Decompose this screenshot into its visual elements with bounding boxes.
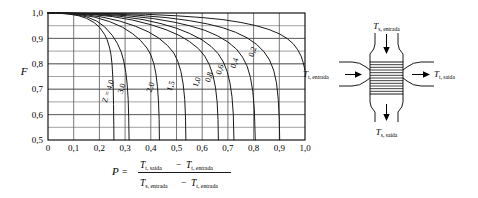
flow-arrow-shell-in (383, 34, 389, 54)
formula-den-term1-sub: s, entrada (145, 183, 168, 189)
chart-panel: Z = 4,03,02,01,51,00,80,60,40,2 00,10,20… (20, 8, 311, 153)
formula-den-term2-sub: t, entrada (196, 183, 218, 189)
x-tick-label: 0,6 (197, 143, 209, 153)
curve-label: 1,5 (165, 80, 177, 92)
figure-lmtd-correction-chart: Z = 4,03,02,01,51,00,80,60,40,2 00,10,20… (0, 0, 478, 198)
formula-equals: = (122, 167, 127, 177)
curve-label: 2,0 (145, 81, 157, 93)
flow-arrow-tube-out (412, 71, 430, 77)
curve-label: 0,8 (203, 71, 215, 83)
diagram-label-shell-outlet: Ts, saída (376, 127, 398, 138)
y-tick-label: 0,8 (32, 59, 44, 69)
y-tick-label: 0,6 (32, 110, 44, 120)
diagram-label-tube-outlet: Tt, saída (434, 69, 455, 80)
duct-vertical-right-lower (398, 94, 403, 122)
duct-vertical-left (370, 33, 375, 62)
x-tick-label: 0,4 (145, 143, 157, 153)
diagram-label-shell-inlet-sub: s, entrada (378, 26, 400, 32)
y-tick-label: 0,7 (32, 84, 44, 94)
svg-text:Ts, entrada: Ts, entrada (140, 178, 168, 189)
formula-denominator: Ts, entrada − Tt, entrada (140, 178, 218, 189)
duct-horizontal-top-right (403, 62, 434, 70)
y-tick-label: 1,0 (32, 8, 44, 18)
chart-y-axis-title: F (20, 65, 28, 77)
diagram-label-tube-outlet-sub: t, saída (439, 74, 455, 80)
duct-horizontal-bottom-right (403, 78, 434, 86)
x-tick-label: 0,7 (222, 143, 234, 153)
curve-label: 0,6 (214, 63, 226, 75)
y-tick-label: 0,5 (32, 135, 44, 145)
x-tick-label: 0,3 (119, 143, 131, 153)
curve-label: 1,0 (191, 76, 203, 88)
formula-num-minus: − (176, 160, 181, 170)
curve-label: 3,0 (116, 82, 128, 94)
formula-lhs: P (111, 165, 119, 177)
formula-num-term1-sub: t, saída (145, 165, 162, 171)
duct-horizontal-top-left (339, 62, 370, 70)
x-tick-label: 0,1 (68, 143, 79, 153)
x-tick-label: 1,0 (299, 143, 311, 153)
curve-label: 0,2 (247, 45, 259, 57)
x-tick-label: 0,2 (94, 143, 105, 153)
flow-arrow-tube-in (345, 71, 362, 77)
curve-label: 0,4 (229, 57, 241, 69)
x-tick-label: 0,5 (171, 143, 183, 153)
formula-block: P = Tt, saída − Tt, entrada Ts, entrada … (111, 160, 231, 189)
chart-x-tick-labels: 00,10,20,30,40,50,60,70,80,91,0 (46, 143, 311, 153)
diagram-label-shell-outlet-sub: s, saída (381, 132, 398, 138)
heat-exchanger-diagram: Ts, entrada Ts, saída Tt, entrada Tt, sa… (303, 21, 455, 138)
duct-vertical-right (398, 33, 403, 62)
x-tick-label: 0,8 (248, 143, 260, 153)
diagram-label-shell-inlet: Ts, entrada (373, 21, 400, 32)
svg-text:Tt, entrada: Tt, entrada (191, 178, 218, 189)
diagram-label-tube-inlet-sub: t, entrada (308, 74, 329, 80)
duct-horizontal-bottom-left (339, 78, 370, 86)
diagram-label-tube-inlet: Tt, entrada (303, 69, 329, 80)
svg-text:Tt, entrada: Tt, entrada (186, 160, 213, 171)
formula-numerator: Tt, saída − Tt, entrada (140, 160, 213, 171)
formula-num-term2-sub: t, entrada (191, 165, 213, 171)
flow-arrow-shell-out (383, 104, 389, 121)
chart-y-tick-labels: 0,50,60,70,80,91,0 (32, 8, 44, 145)
duct-vertical-left-lower (370, 94, 375, 122)
x-tick-label: 0,9 (274, 143, 286, 153)
formula-den-minus: − (181, 178, 186, 188)
y-tick-label: 0,9 (32, 34, 44, 44)
svg-text:Tt, saída: Tt, saída (140, 160, 162, 171)
chart-curve-labels: Z = 4,03,02,01,51,00,80,60,40,2 (100, 45, 258, 103)
x-tick-label: 0 (46, 143, 51, 153)
